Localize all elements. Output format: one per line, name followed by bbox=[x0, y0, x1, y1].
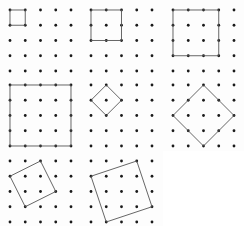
lattice-dot bbox=[70, 39, 73, 42]
lattice-dot bbox=[24, 54, 27, 57]
square-outline bbox=[10, 10, 25, 25]
lattice-dot bbox=[187, 24, 190, 27]
lattice-dot bbox=[70, 175, 73, 178]
lattice-dot bbox=[54, 220, 57, 223]
lattice-dot bbox=[90, 84, 93, 87]
lattice-dot bbox=[90, 130, 93, 133]
lattice-dot bbox=[105, 159, 108, 162]
lattice-dot bbox=[9, 39, 12, 42]
lattice-dot bbox=[187, 114, 190, 117]
lattice-dot bbox=[151, 24, 154, 27]
panel-canvas bbox=[0, 75, 81, 150]
panel-tilted-square-1-2 bbox=[0, 151, 81, 226]
lattice-dot bbox=[105, 205, 108, 208]
lattice-dot bbox=[39, 70, 42, 73]
lattice-dot bbox=[70, 9, 73, 12]
lattice-dot bbox=[136, 99, 139, 102]
lattice-dot bbox=[54, 114, 57, 117]
lattice-dot bbox=[136, 54, 139, 57]
lattice-dot bbox=[90, 205, 93, 208]
panel-canvas bbox=[163, 75, 244, 150]
lattice-dot bbox=[54, 39, 57, 42]
panel-canvas bbox=[0, 0, 81, 75]
lattice-dot bbox=[39, 220, 42, 223]
lattice-dot bbox=[171, 70, 174, 73]
lattice-dot bbox=[232, 54, 235, 57]
lattice-dot bbox=[136, 84, 139, 87]
panel-grid bbox=[0, 0, 244, 226]
lattice-dot bbox=[24, 70, 27, 73]
lattice-dot bbox=[54, 130, 57, 133]
panel-canvas bbox=[163, 0, 244, 75]
lattice-dot bbox=[39, 39, 42, 42]
lattice-dot bbox=[54, 159, 57, 162]
lattice-dot bbox=[151, 175, 154, 178]
lattice-dot bbox=[232, 24, 235, 27]
lattice-dot bbox=[105, 145, 108, 148]
panel-square-3x3 bbox=[163, 0, 244, 75]
lattice-dot bbox=[70, 54, 73, 57]
lattice-dot bbox=[151, 9, 154, 12]
lattice-dot bbox=[217, 84, 220, 87]
lattice-dot bbox=[39, 175, 42, 178]
panel-square-1x1 bbox=[0, 0, 81, 75]
lattice-dot bbox=[217, 114, 220, 117]
lattice-dot bbox=[90, 114, 93, 117]
lattice-dot bbox=[171, 130, 174, 133]
lattice-dot bbox=[39, 190, 42, 193]
lattice-dot bbox=[54, 9, 57, 12]
lattice-dot bbox=[70, 220, 73, 223]
lattice-dot bbox=[54, 99, 57, 102]
lattice-dot bbox=[70, 24, 73, 27]
lattice-dot bbox=[136, 175, 139, 178]
lattice-dot bbox=[9, 205, 12, 208]
lattice-dot bbox=[120, 220, 123, 223]
lattice-dot bbox=[105, 175, 108, 178]
lattice-dot bbox=[120, 205, 123, 208]
lattice-dot bbox=[54, 54, 57, 57]
lattice-dot bbox=[39, 130, 42, 133]
lattice-dot bbox=[9, 54, 12, 57]
lattice-dot bbox=[151, 130, 154, 133]
lattice-dot bbox=[120, 70, 123, 73]
lattice-dot bbox=[70, 159, 73, 162]
lattice-dot bbox=[136, 70, 139, 73]
lattice-dot bbox=[39, 114, 42, 117]
lattice-dot bbox=[90, 159, 93, 162]
lattice-dot bbox=[187, 70, 190, 73]
lattice-dot bbox=[9, 220, 12, 223]
lattice-dot bbox=[105, 70, 108, 73]
lattice-dot bbox=[120, 130, 123, 133]
lattice-dot bbox=[217, 70, 220, 73]
lattice-dot bbox=[9, 190, 12, 193]
lattice-dot bbox=[136, 39, 139, 42]
lattice-dot bbox=[9, 70, 12, 73]
lattice-dot bbox=[202, 39, 205, 42]
lattice-dot bbox=[90, 54, 93, 57]
lattice-dot bbox=[70, 190, 73, 193]
panel-square-4x4 bbox=[0, 75, 81, 150]
lattice-dot bbox=[202, 99, 205, 102]
lattice-dot bbox=[232, 145, 235, 148]
lattice-dot bbox=[151, 99, 154, 102]
panel-square-2x2 bbox=[81, 0, 162, 75]
lattice-dot bbox=[24, 39, 27, 42]
lattice-dot bbox=[187, 84, 190, 87]
panel-blank-panel bbox=[163, 151, 244, 226]
lattice-dot bbox=[151, 114, 154, 117]
lattice-dot bbox=[54, 70, 57, 73]
lattice-dot bbox=[24, 130, 27, 133]
lattice-dot bbox=[105, 54, 108, 57]
square-outline bbox=[173, 10, 219, 56]
panel-canvas bbox=[163, 151, 244, 226]
lattice-dot bbox=[187, 145, 190, 148]
lattice-dot bbox=[136, 145, 139, 148]
lattice-dot bbox=[232, 9, 235, 12]
lattice-dot bbox=[151, 70, 154, 73]
lattice-dot bbox=[24, 175, 27, 178]
lattice-dot bbox=[39, 205, 42, 208]
lattice-dot bbox=[232, 99, 235, 102]
lattice-dot bbox=[136, 114, 139, 117]
lattice-dot bbox=[90, 70, 93, 73]
lattice-dot bbox=[24, 114, 27, 117]
